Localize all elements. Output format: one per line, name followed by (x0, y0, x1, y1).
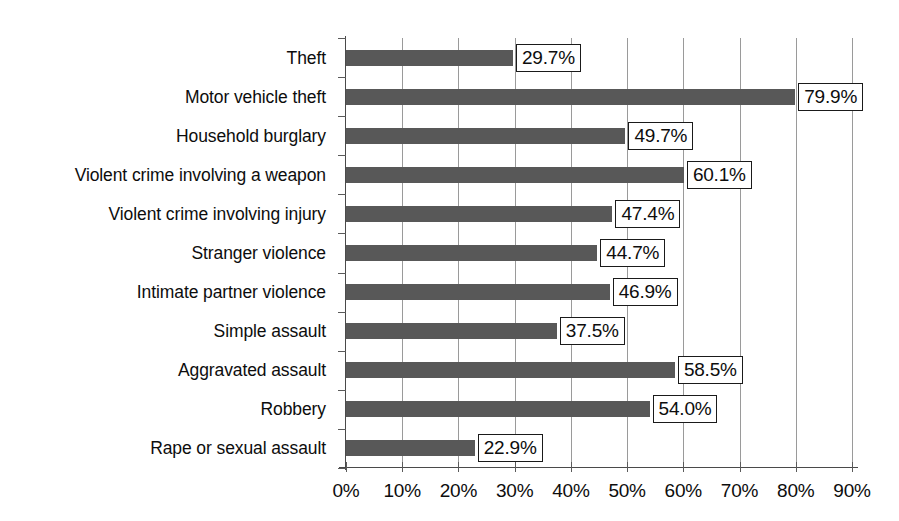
y-axis-tick (338, 233, 346, 234)
category-label: Intimate partner violence (137, 282, 326, 302)
y-axis-tick (338, 155, 346, 156)
y-axis-line (345, 36, 346, 470)
category-label: Violent crime involving a weapon (75, 165, 326, 185)
y-axis-tick (338, 77, 346, 78)
y-axis-tick (338, 390, 346, 391)
bar (346, 440, 475, 456)
y-axis-tick (338, 429, 346, 430)
category-label: Theft (287, 48, 326, 68)
y-axis-tick (338, 116, 346, 117)
y-axis-tick (338, 351, 346, 352)
x-axis-tick (740, 462, 741, 472)
category-label: Rape or sexual assault (150, 438, 326, 458)
bar-chart: TheftMotor vehicle theftHousehold burgla… (0, 0, 899, 521)
data-label: 46.9% (613, 278, 678, 306)
data-label: 49.7% (628, 122, 693, 150)
bar (346, 323, 557, 339)
x-axis-tick (796, 462, 797, 472)
x-axis-tick (627, 462, 628, 472)
bar (346, 362, 675, 378)
category-label: Robbery (261, 399, 326, 419)
x-axis-tick-label: 70% (710, 478, 770, 504)
category-axis-labels: TheftMotor vehicle theftHousehold burgla… (0, 38, 336, 468)
data-label: 58.5% (678, 356, 743, 384)
y-axis-tick (338, 312, 346, 313)
x-axis-tick-label: 80% (766, 478, 826, 504)
data-label: 37.5% (560, 317, 625, 345)
bar (346, 206, 612, 222)
data-label: 54.0% (653, 395, 718, 423)
x-axis-tick-label: 10% (372, 478, 432, 504)
y-axis-tick (338, 468, 346, 469)
plot-area: 29.7%79.9%49.7%60.1%47.4%44.7%46.9%37.5%… (346, 38, 852, 468)
bar (346, 245, 597, 261)
category-label: Stranger violence (192, 243, 327, 263)
x-axis-tick (346, 462, 347, 472)
bar (346, 284, 610, 300)
x-axis-tick-label: 30% (485, 478, 545, 504)
x-axis-line (339, 467, 858, 468)
x-axis-tick (571, 462, 572, 472)
data-label: 47.4% (615, 200, 680, 228)
bar (346, 167, 684, 183)
y-axis-tick (338, 38, 346, 39)
x-axis-tick (683, 462, 684, 472)
category-label: Household burglary (176, 126, 326, 146)
y-axis-tick (338, 194, 346, 195)
x-axis-tick (402, 462, 403, 472)
category-label: Motor vehicle theft (185, 87, 326, 107)
x-axis-tick (515, 462, 516, 472)
y-axis-tick (338, 273, 346, 274)
data-label: 29.7% (516, 44, 581, 72)
x-axis-tick-label: 60% (653, 478, 713, 504)
data-label: 44.7% (600, 239, 665, 267)
x-axis-tick-label: 50% (597, 478, 657, 504)
category-label: Aggravated assault (178, 360, 326, 380)
bar (346, 89, 795, 105)
x-axis-tick-label: 90% (822, 478, 882, 504)
data-label: 60.1% (687, 161, 752, 189)
bar (346, 128, 625, 144)
data-label: 79.9% (798, 83, 863, 111)
bar (346, 401, 650, 417)
x-axis-tick-label: 0% (316, 478, 376, 504)
x-axis-tick-label: 20% (428, 478, 488, 504)
x-axis-tick-labels: 0%10%20%30%40%50%60%70%80%90% (0, 478, 899, 508)
x-axis-tick (852, 462, 853, 472)
category-label: Simple assault (214, 321, 326, 341)
x-axis-tick (458, 462, 459, 472)
data-label: 22.9% (478, 434, 543, 462)
bar (346, 50, 513, 66)
x-axis-tick-label: 40% (541, 478, 601, 504)
gridline (796, 38, 797, 468)
category-label: Violent crime involving injury (109, 204, 326, 224)
